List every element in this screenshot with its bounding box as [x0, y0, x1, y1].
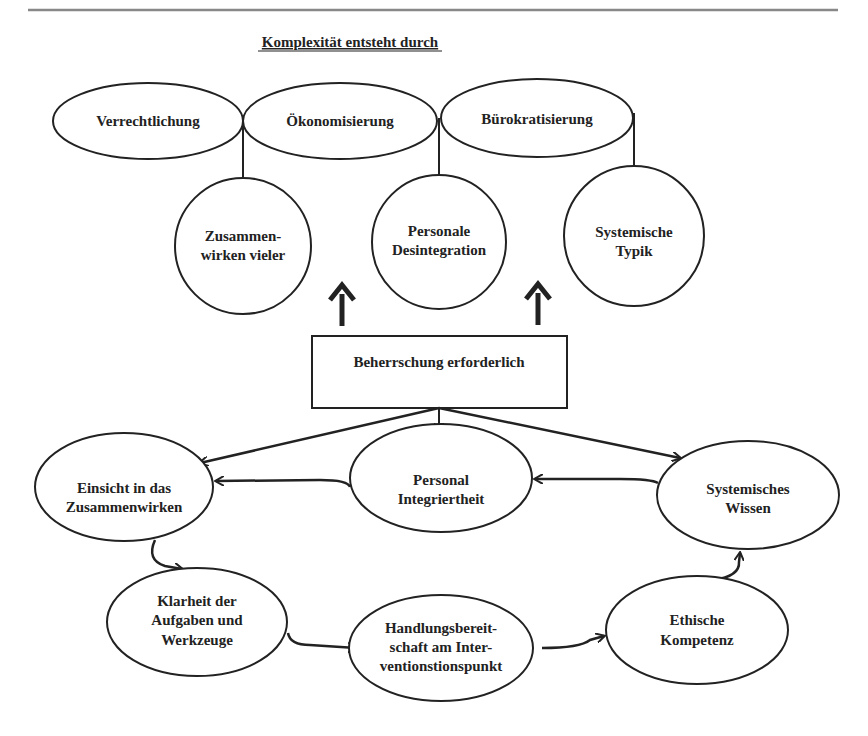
node-zusammenwirken-vieler: Zusammen- wirken vieler	[175, 178, 311, 314]
svg-text:Verrechtlichung: Verrechtlichung	[96, 113, 200, 129]
svg-text:Einsicht in das: Einsicht in das	[77, 480, 171, 496]
complexity-diagram: Komplexität entsteht durch Verrechtlichu…	[0, 0, 868, 736]
svg-text:Systemisches: Systemisches	[706, 481, 789, 497]
up-arrow-icon	[330, 285, 354, 326]
node-verrechtlichung: Verrechtlichung	[53, 83, 243, 159]
svg-text:Handlungsbereit-: Handlungsbereit-	[385, 620, 497, 636]
svg-text:Zusammenwirken: Zusammenwirken	[66, 499, 183, 515]
svg-text:Aufgaben und: Aufgaben und	[151, 612, 243, 628]
svg-text:schaft am Inter-: schaft am Inter-	[390, 639, 493, 655]
arrow-klarheit-to-handlung	[288, 633, 356, 648]
svg-text:Personal: Personal	[413, 472, 469, 488]
node-buerokratisierung: Bürokratisierung	[441, 79, 633, 157]
node-personale-desintegration: Personale Desintegration	[372, 175, 506, 309]
node-systemisches-wissen: Systemisches Wissen	[657, 441, 839, 549]
svg-text:Ethische: Ethische	[669, 612, 724, 628]
svg-text:Systemische: Systemische	[595, 224, 673, 240]
svg-text:Wissen: Wissen	[725, 500, 771, 516]
svg-text:Werkzeuge: Werkzeuge	[161, 632, 233, 648]
arrow-ethik-to-wissen	[714, 553, 740, 580]
svg-text:Bürokratisierung: Bürokratisierung	[481, 111, 593, 127]
arrow-integriertheit-to-einsicht	[216, 480, 350, 487]
svg-text:Typik: Typik	[615, 243, 653, 259]
svg-text:Integriertheit: Integriertheit	[398, 491, 485, 507]
node-handlungsbereitschaft: Handlungsbereit- schaft am Inter- ventio…	[349, 595, 533, 701]
svg-text:Personale: Personale	[408, 223, 471, 239]
node-systemische-typik: Systemische Typik	[564, 166, 704, 306]
svg-text:Klarheit der: Klarheit der	[157, 593, 237, 609]
svg-text:Beherrschung erforderlich: Beherrschung erforderlich	[353, 354, 525, 370]
svg-text:wirken vieler: wirken vieler	[201, 247, 286, 263]
arrow-handlung-to-ethik	[542, 636, 604, 648]
node-beherrschung-erforderlich: Beherrschung erforderlich	[312, 336, 567, 408]
svg-text:Kompetenz: Kompetenz	[660, 632, 734, 648]
arrow-wissen-to-integriertheit	[535, 479, 658, 483]
svg-text:Zusammen-: Zusammen-	[205, 228, 282, 244]
node-einsicht-in-das-zusammenwirken: Einsicht in das Zusammenwirken	[35, 433, 213, 541]
node-personal-integriertheit: Personal Integriertheit	[350, 424, 532, 532]
diagram-title: Komplexität entsteht durch	[262, 34, 439, 50]
up-arrow-icon	[526, 284, 550, 325]
node-oekonomisierung: Ökonomisierung	[243, 83, 437, 159]
node-klarheit-der-aufgaben: Klarheit der Aufgaben und Werkzeuge	[107, 568, 287, 676]
arrow-einsicht-to-klarheit	[152, 540, 182, 569]
node-ethische-kompetenz: Ethische Kompetenz	[606, 576, 788, 684]
svg-text:ventionstionspunkt: ventionstionspunkt	[380, 658, 503, 674]
svg-text:Ökonomisierung: Ökonomisierung	[286, 113, 394, 129]
svg-text:Desintegration: Desintegration	[392, 242, 487, 258]
